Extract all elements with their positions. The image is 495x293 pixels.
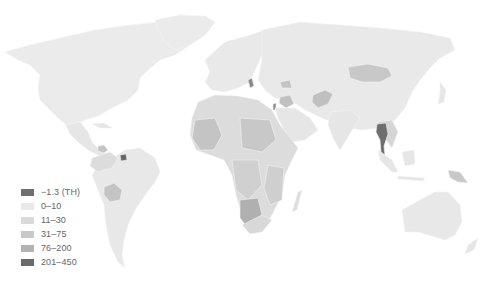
thailand	[376, 123, 388, 156]
balkans	[248, 78, 254, 88]
legend-swatch-76-200	[21, 245, 34, 252]
legend-item: −1.3 (TH)	[21, 185, 80, 199]
legend-label: 31–75	[41, 229, 67, 239]
legend-item: 201–450	[21, 255, 80, 269]
legend-label: −1.3 (TH)	[41, 187, 80, 197]
legend-swatch-31-75	[21, 231, 34, 238]
legend-label: 11–30	[41, 215, 66, 225]
suriname	[120, 154, 127, 161]
legend-label: 201–450	[41, 257, 77, 267]
india	[328, 110, 360, 150]
borneo	[402, 150, 415, 166]
papua-new-guinea	[448, 170, 468, 183]
legend-item: 11–30	[21, 213, 80, 227]
japan	[438, 82, 446, 104]
australia	[402, 192, 462, 240]
legend-swatch-201-450	[21, 259, 34, 266]
legend-swatch-0-10	[21, 203, 34, 210]
nicaragua-honduras	[98, 145, 108, 153]
legend-swatch-11-30	[21, 217, 34, 224]
java	[398, 176, 425, 181]
map-legend: −1.3 (TH) 0–10 11–30 31–75 76–200 201–45…	[21, 185, 80, 269]
legend-swatch-th	[21, 189, 34, 196]
sumatra	[378, 150, 398, 172]
new-zealand	[465, 238, 478, 254]
legend-item: 0–10	[21, 199, 80, 213]
legend-label: 0–10	[41, 201, 61, 211]
legend-label: 76–200	[41, 243, 72, 253]
madagascar	[292, 190, 302, 212]
cuba	[92, 123, 112, 128]
legend-item: 76–200	[21, 241, 80, 255]
legend-item: 31–75	[21, 227, 80, 241]
